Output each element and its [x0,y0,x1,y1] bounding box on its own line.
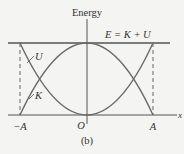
energy-axis-title: Energy [72,7,103,18]
energy-diagram: Energy E = K + U U K x −A O A (b) [0,0,184,154]
origin-tick: O [77,120,85,131]
pos-a-tick: A [149,121,157,132]
u-label: U [35,51,44,62]
figure-caption: (b) [81,135,94,147]
k-label: K [34,90,43,101]
neg-a-tick: −A [13,121,27,132]
total-energy-label: E = K + U [104,29,152,40]
x-axis-label: x [177,110,182,120]
